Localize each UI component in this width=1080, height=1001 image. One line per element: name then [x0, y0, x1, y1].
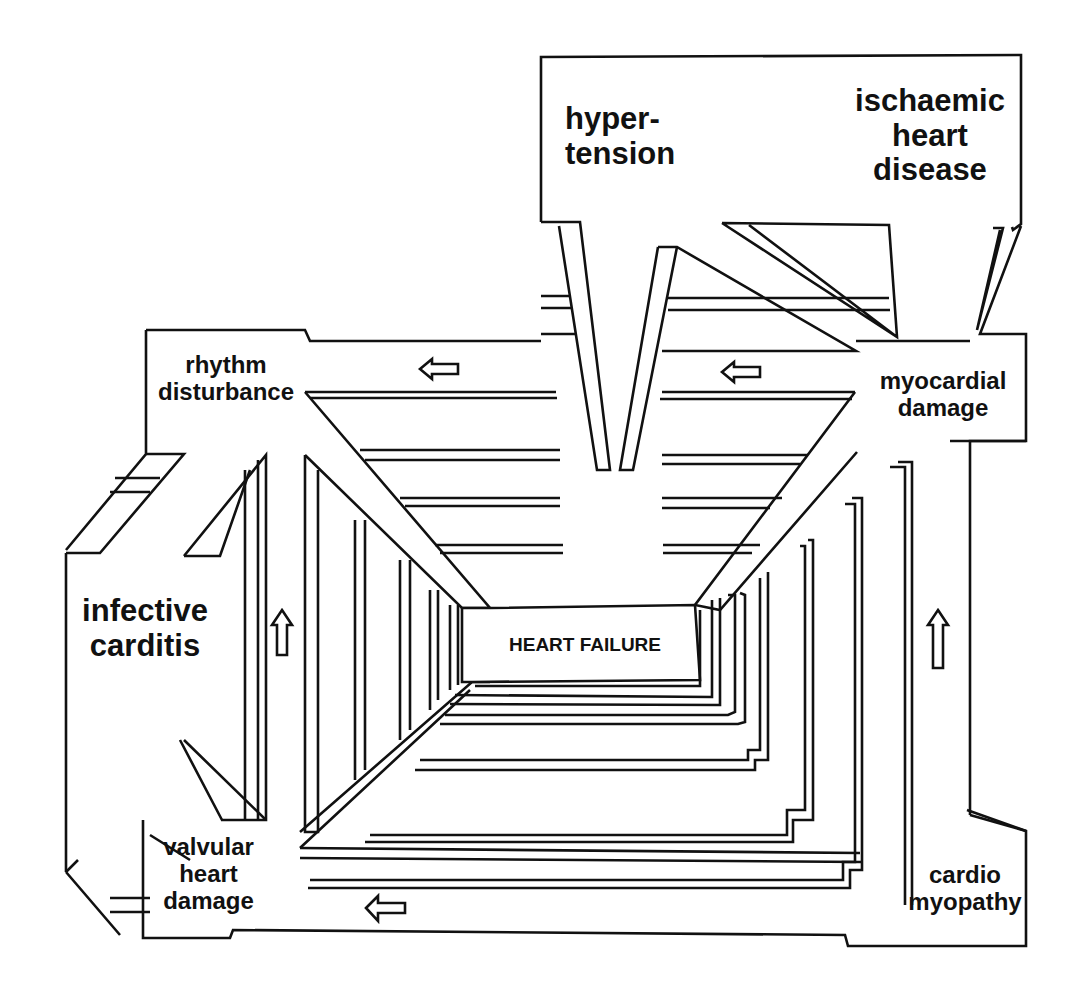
node-heart-failure: HEART FAILURE — [480, 634, 690, 655]
node-myocardial-damage: myocardial damage — [868, 368, 1018, 422]
node-hypertension: hyper- tension — [565, 102, 705, 171]
node-valvular-heart-damage: valvular heart damage — [146, 834, 271, 915]
heart-failure-diagram: hyper- tension ischaemic heart disease r… — [0, 0, 1080, 1001]
arrow-left-top-right — [722, 362, 760, 382]
node-rhythm-disturbance: rhythm disturbance — [146, 352, 306, 406]
arrow-up-left — [272, 610, 292, 655]
arrow-left-top-left — [420, 359, 458, 379]
node-cardiomyopathy: cardio myopathy — [905, 862, 1025, 916]
node-ischaemic-heart-disease: ischaemic heart disease — [845, 84, 1015, 188]
arrow-left-bottom — [366, 896, 405, 921]
node-infective-carditis: infective carditis — [70, 594, 220, 663]
arrow-up-right — [928, 610, 948, 668]
